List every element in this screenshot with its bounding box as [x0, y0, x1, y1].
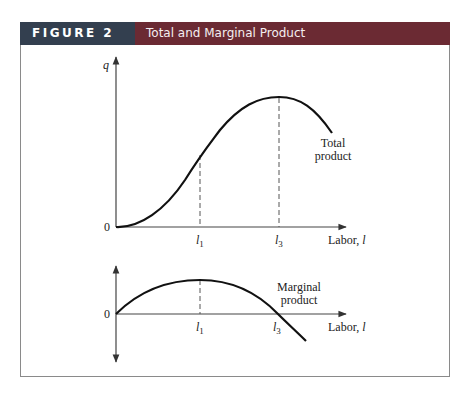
- total-product-curve: [116, 97, 332, 227]
- total-label-line2: product: [315, 149, 352, 163]
- marginal-label-line2: product: [281, 293, 318, 307]
- marginal-product-chart: 0 l1 l3 Labor, l Marginal product: [104, 266, 366, 362]
- bottom-origin-label: 0: [104, 307, 110, 321]
- top-origin-label: 0: [104, 220, 110, 234]
- bottom-l1-tick-label: l1: [196, 320, 204, 336]
- marginal-label-line1: Marginal: [277, 280, 321, 294]
- total-product-chart: q 0 l1 l3 Labor, l Total product: [103, 57, 366, 249]
- bottom-x-axis-label: Labor, l: [328, 320, 366, 334]
- figure-charts: q 0 l1 l3 Labor, l Total product 0 l1 l3…: [0, 0, 467, 396]
- top-l3-tick-label: l3: [275, 233, 283, 249]
- total-label-line1: Total: [321, 136, 346, 150]
- top-l1-tick-label: l1: [196, 233, 204, 249]
- bottom-l3-tick-label: l3: [273, 320, 281, 336]
- top-x-axis-label: Labor, l: [328, 233, 366, 247]
- q-axis-label: q: [103, 58, 109, 72]
